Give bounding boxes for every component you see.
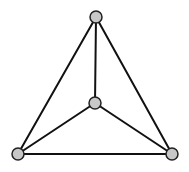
node-bottom-left xyxy=(12,148,24,160)
edge-top-bottom-left xyxy=(18,17,96,154)
node-center xyxy=(89,97,101,109)
edge-top-center xyxy=(95,17,96,103)
edge-center-bottom-right xyxy=(95,103,172,154)
graph-diagram xyxy=(0,0,189,172)
node-bottom-right xyxy=(166,148,178,160)
edges xyxy=(18,17,172,154)
edge-center-bottom-left xyxy=(18,103,95,154)
node-top xyxy=(90,11,102,23)
edge-top-bottom-right xyxy=(96,17,172,154)
